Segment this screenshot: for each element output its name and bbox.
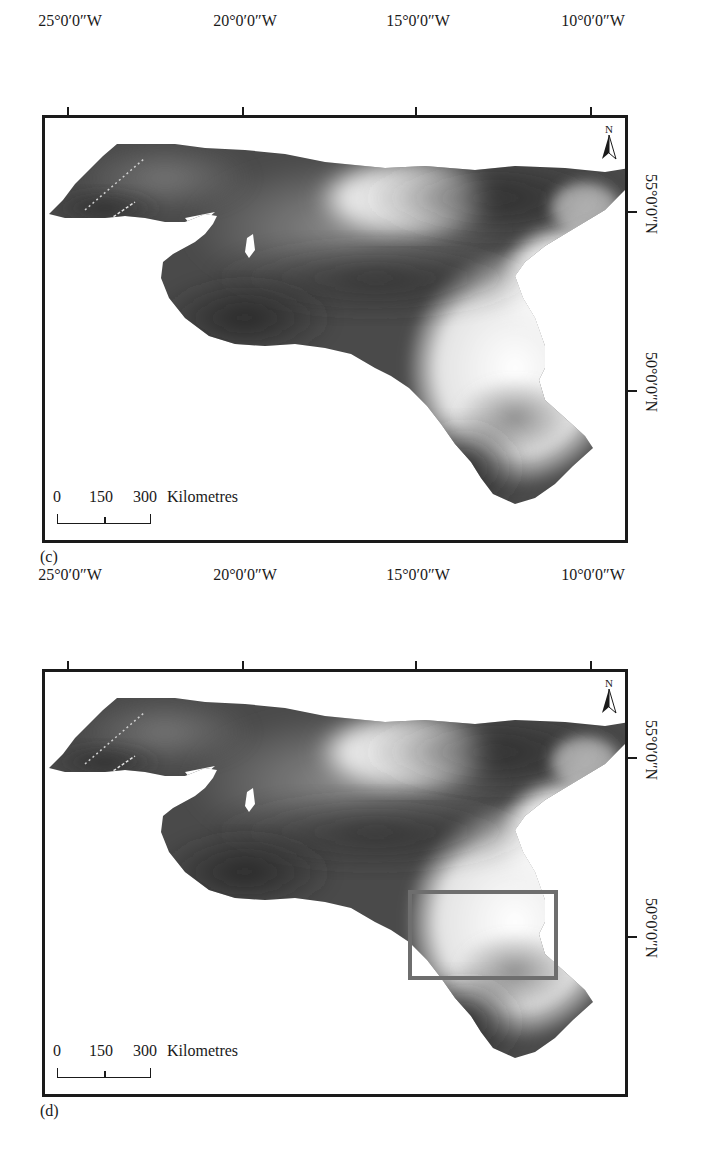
longitude-tick — [590, 661, 592, 671]
north-arrow-icon — [600, 135, 618, 161]
scale-tick-0: 0 — [53, 488, 61, 506]
longitude-tick — [415, 661, 417, 671]
longitude-tick — [67, 107, 69, 117]
latitude-tick — [627, 390, 637, 392]
scale-bar-line — [57, 1068, 151, 1078]
north-arrow-icon — [600, 689, 618, 715]
latitude-label: 55°0′0″N — [642, 720, 660, 780]
longitude-label: 10°0′0″W — [561, 12, 625, 30]
scale-unit: Kilometres — [167, 1042, 238, 1060]
longitude-tick — [242, 661, 244, 671]
north-label: N — [599, 678, 619, 689]
bathymetry-map — [45, 118, 625, 540]
longitude-label: 25°0′0″W — [38, 12, 102, 30]
longitude-tick — [590, 107, 592, 117]
panel-caption: (c) — [40, 548, 58, 566]
north-arrow: N — [599, 124, 619, 165]
latitude-label: 50°0′0″N — [642, 898, 660, 958]
longitude-label: 20°0′0″W — [213, 566, 277, 584]
latitude-tick — [627, 936, 637, 938]
longitude-label: 15°0′0″W — [386, 566, 450, 584]
north-label: N — [599, 124, 619, 135]
panel-caption: (d) — [40, 1102, 59, 1120]
bathymetry-map — [45, 672, 625, 1094]
longitude-tick — [415, 107, 417, 117]
scale-tick-150: 150 — [89, 488, 113, 506]
scale-tick-300: 300 — [133, 1042, 157, 1060]
map-frame: N 0 150 300 Kilometres — [42, 669, 628, 1097]
scale-unit: Kilometres — [167, 488, 238, 506]
latitude-label: 50°0′0″N — [642, 352, 660, 412]
scale-bar-line — [57, 514, 151, 524]
longitude-label: 15°0′0″W — [386, 12, 450, 30]
longitude-label: 25°0′0″W — [38, 566, 102, 584]
north-arrow: N — [599, 678, 619, 719]
latitude-label: 55°0′0″N — [642, 174, 660, 234]
longitude-tick — [67, 661, 69, 671]
longitude-tick — [242, 107, 244, 117]
scale-tick-150: 150 — [89, 1042, 113, 1060]
latitude-tick — [627, 757, 637, 759]
scale-tick-0: 0 — [53, 1042, 61, 1060]
scale-tick-300: 300 — [133, 488, 157, 506]
map-frame: N 0 150 300 Kilometres — [42, 115, 628, 543]
latitude-tick — [627, 211, 637, 213]
map-panel-d: 25°0′0″W 20°0′0″W 15°0′0″W 10°0′0″W — [0, 566, 703, 1126]
longitude-label: 10°0′0″W — [561, 566, 625, 584]
longitude-label: 20°0′0″W — [213, 12, 277, 30]
map-panel-c: 25°0′0″W 20°0′0″W 15°0′0″W 10°0′0″W — [0, 12, 703, 572]
